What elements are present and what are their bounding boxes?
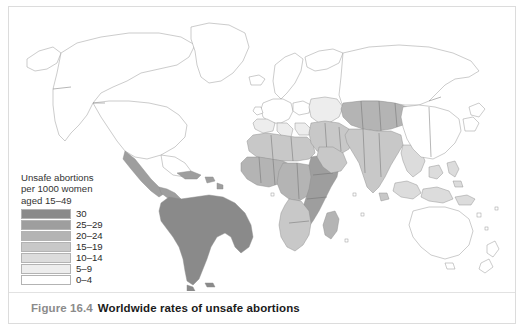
legend-swatch (21, 220, 71, 230)
figure-caption: Figure 16.4 Worldwide rates of unsafe ab… (9, 293, 515, 323)
legend-swatch (21, 264, 71, 274)
legend-swatch (21, 209, 71, 219)
legend-swatch (21, 253, 71, 263)
legend-entry: 5–9 (21, 263, 129, 274)
legend-entry: 25–29 (21, 219, 129, 230)
legend-title-line1: Unsafe abortions (21, 172, 129, 183)
legend-label: 20–24 (76, 230, 103, 241)
figure-number: Figure 16.4 (31, 302, 93, 314)
legend-swatch (21, 231, 71, 241)
figure-caption-text: Worldwide rates of unsafe abortions (98, 302, 300, 314)
figure-container: .ln{fill:none;stroke:#6f6f6f;stroke-widt… (8, 6, 516, 324)
legend-label: 15–19 (76, 241, 103, 252)
legend-entry: 10–14 (21, 252, 129, 263)
legend-title-line2: per 1000 women (21, 183, 129, 194)
legend-swatch (21, 242, 71, 252)
map-legend: Unsafe abortions per 1000 women aged 15–… (21, 172, 129, 285)
legend-label: 10–14 (76, 252, 103, 263)
legend-entry: 30 (21, 208, 129, 219)
legend-label: 5–9 (76, 263, 92, 274)
legend-swatch (21, 275, 71, 285)
legend-label: 30 (76, 208, 87, 219)
legend-title-line3: aged 15–49 (21, 195, 129, 206)
legend-label: 25–29 (76, 219, 103, 230)
legend-label: 0–4 (76, 274, 92, 285)
legend-entries: 30 25–29 20–24 15–19 10–14 (21, 208, 129, 285)
legend-entry: 0–4 (21, 274, 129, 285)
world-map: .ln{fill:none;stroke:#6f6f6f;stroke-widt… (9, 7, 515, 291)
legend-entry: 20–24 (21, 230, 129, 241)
legend-entry: 15–19 (21, 241, 129, 252)
legend-title: Unsafe abortions per 1000 women aged 15–… (21, 172, 129, 206)
